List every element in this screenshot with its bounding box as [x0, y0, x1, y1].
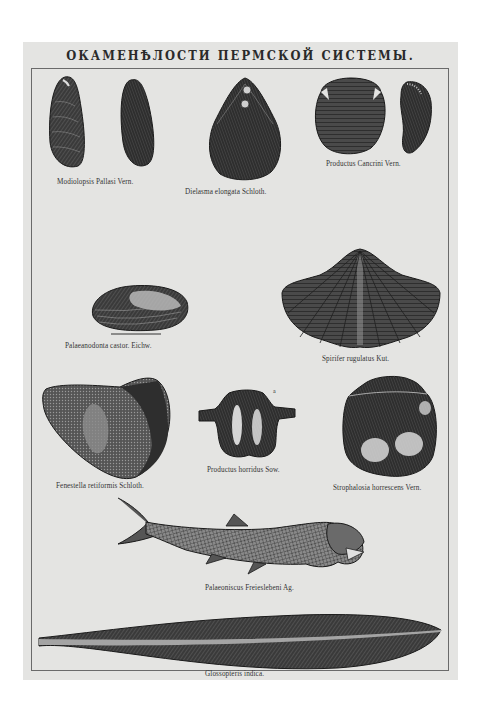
glossopteris-illustration — [37, 612, 445, 672]
productus-cancrini-illustration — [309, 78, 439, 156]
label-fenestella: Fenestella retiformis Schloth. — [56, 482, 144, 490]
strophalosia-illustration — [341, 374, 441, 478]
label-strophalosia: Strophalosia horrescens Vern. — [333, 484, 421, 492]
engraving-plate: ОКАМЕНѢЛОСТИ ПЕРМСКОЙ СИСТЕМЫ. — [23, 42, 458, 680]
label-palaeoniscus: Palaeoniscus Freieslebeni Ag. — [205, 584, 294, 592]
spirifer-illustration — [280, 247, 442, 351]
plate-title: ОКАМЕНѢЛОСТИ ПЕРМСКОЙ СИСТЕМЫ. — [40, 48, 440, 63]
fenestella-illustration — [40, 375, 174, 481]
modiolopsis-illustration — [43, 72, 173, 172]
productus-horridus-illustration: a — [195, 389, 299, 461]
label-spirifer: Spirifer rugulatus Kut. — [322, 355, 389, 363]
label-productus-cancrini: Productus Cancrini Vern. — [326, 160, 401, 168]
palaeoniscus-illustration — [116, 498, 368, 582]
label-glossopteris: Glossopteris indica. — [205, 670, 264, 678]
marker-a: a — [273, 388, 276, 394]
palaeanodonta-illustration — [85, 282, 191, 338]
dielasma-illustration — [205, 76, 285, 182]
label-palaeanodonta: Palaeanodonta castor. Eichw. — [65, 342, 152, 350]
label-dielasma: Dielasma elongata Schloth. — [185, 188, 266, 196]
label-productus-horridus: Productus horridus Sow. — [207, 466, 280, 474]
label-modiolopsis: Modiolopsis Pallasi Vern. — [57, 178, 133, 186]
